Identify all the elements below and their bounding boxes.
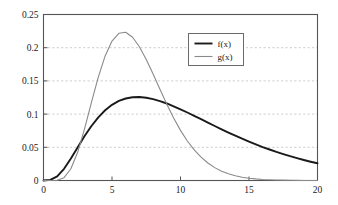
y-axis-tick-labels: 00.050.10.150.20.25 [22, 10, 39, 186]
x-tick-label: 5 [110, 185, 115, 195]
y-tick-label: 0.1 [27, 110, 39, 120]
x-tick-label: 20 [313, 185, 323, 195]
y-tick-label: 0.2 [27, 43, 39, 53]
y-tick-label: 0.05 [22, 143, 39, 153]
axes-box [44, 15, 318, 181]
chart-container: 00.050.10.150.20.25 05101520 f(x)g(x) [0, 0, 338, 205]
series-line-fx [44, 97, 318, 180]
y-tick-label: 0.25 [22, 10, 39, 20]
tick-marks [44, 15, 318, 181]
series-line-gx [44, 32, 318, 180]
line-chart: 00.050.10.150.20.25 05101520 f(x)g(x) [0, 0, 338, 205]
legend-label-fx: f(x) [218, 39, 232, 49]
x-tick-label: 0 [41, 185, 46, 195]
legend-box [189, 34, 244, 66]
legend-label-gx: g(x) [218, 52, 233, 62]
x-tick-label: 15 [244, 185, 254, 195]
plot-frame [44, 15, 318, 181]
chart-legend: f(x)g(x) [189, 34, 244, 66]
y-tick-label: 0.15 [22, 76, 39, 86]
x-axis-tick-labels: 05101520 [41, 185, 322, 195]
x-tick-label: 10 [176, 185, 186, 195]
y-tick-label: 0 [34, 176, 39, 186]
data-series [44, 32, 318, 180]
